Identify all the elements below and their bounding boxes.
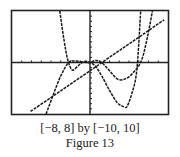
figure-caption: Figure 13 bbox=[0, 136, 180, 150]
window-range-label: [−8, 8] by [−10, 10] bbox=[0, 121, 180, 135]
graph-window bbox=[0, 0, 180, 120]
